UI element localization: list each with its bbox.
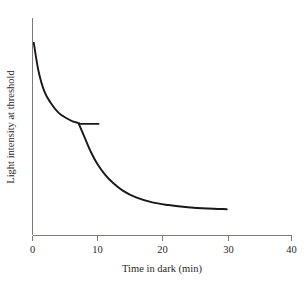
x-tick-label-30: 30 bbox=[223, 244, 234, 255]
x-axis-title: Time in dark (min) bbox=[122, 263, 202, 275]
chart-plot-area: 0 10 20 30 40 Time in dark (min) Light i… bbox=[0, 0, 307, 282]
x-tick-label-0: 0 bbox=[30, 244, 35, 255]
dark-adaptation-chart-figure: 0 10 20 30 40 Time in dark (min) Light i… bbox=[0, 0, 307, 282]
y-axis-title: Light intensity at threshold bbox=[5, 70, 16, 184]
x-tick-label-10: 10 bbox=[92, 244, 103, 255]
chart-background bbox=[0, 0, 307, 282]
x-tick-label-20: 20 bbox=[157, 244, 168, 255]
x-tick-label-40: 40 bbox=[286, 244, 297, 255]
